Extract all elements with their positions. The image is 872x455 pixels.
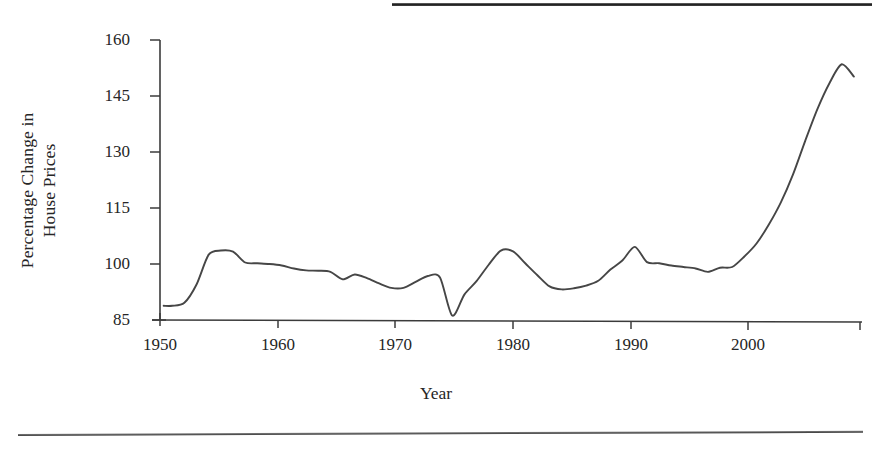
x-axis-line bbox=[152, 320, 862, 322]
y-axis-ticks bbox=[150, 40, 166, 320]
figure-container: Percentage Change in House Prices Year 8… bbox=[0, 0, 872, 455]
data-line-house-prices bbox=[164, 64, 854, 316]
plot-area bbox=[0, 0, 872, 455]
